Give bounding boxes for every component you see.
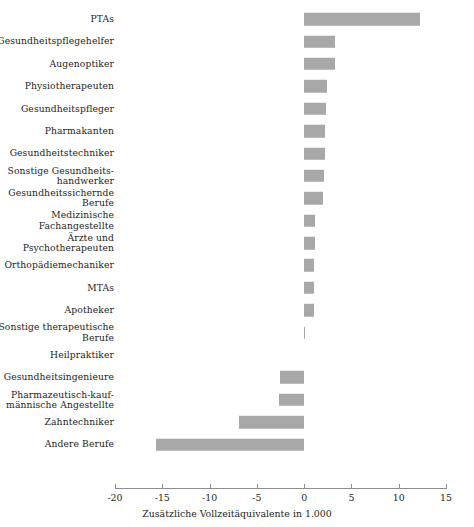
x-tick-label: -20 [95, 492, 135, 503]
x-tick-label: 5 [331, 492, 371, 503]
x-tick-label: -10 [190, 492, 230, 503]
bar-track [0, 389, 474, 411]
plot-area: PTAsGesundheitspflegehelferAugenoptikerP… [0, 0, 474, 527]
bar [280, 371, 305, 384]
bar-row: Heilpraktiker [0, 344, 474, 366]
bar [304, 282, 313, 295]
x-tick-label: 0 [284, 492, 324, 503]
bar-track [0, 8, 474, 30]
bar [304, 35, 335, 48]
bar-row: Pharmazeutisch-kauf- männische Angestell… [0, 389, 474, 411]
bar-row: Gesundheitsingenieure [0, 366, 474, 388]
bar-row: MTAs [0, 277, 474, 299]
bar-track [0, 299, 474, 321]
bar [304, 125, 325, 138]
bar-chart: PTAsGesundheitspflegehelferAugenoptikerP… [0, 0, 474, 527]
bar [304, 304, 313, 317]
bar [304, 147, 325, 160]
bar-row: Gesundheitspfleger [0, 98, 474, 120]
bar-row: Zahntechniker [0, 411, 474, 433]
x-tick [446, 484, 447, 489]
bar-track [0, 75, 474, 97]
x-tick [351, 484, 352, 489]
bar [156, 438, 304, 451]
bar-row: Gesundheitstechniker [0, 142, 474, 164]
bar-track [0, 142, 474, 164]
bar [304, 214, 315, 227]
bar-track [0, 366, 474, 388]
bar [279, 394, 305, 407]
bar-row: Pharmakanten [0, 120, 474, 142]
bar-track [0, 277, 474, 299]
bar-row: PTAs [0, 8, 474, 30]
bar-row: Gesundheitspflegehelfer [0, 30, 474, 52]
bar [304, 237, 314, 250]
bar-row: Andere Berufe [0, 433, 474, 455]
x-tick [210, 484, 211, 489]
bar [304, 13, 419, 26]
x-tick-label: 15 [426, 492, 466, 503]
bar-row: Ärzte und Psychotherapeuten [0, 232, 474, 254]
bar [304, 192, 323, 205]
bar-row: Gesundheitssichernde Berufe [0, 187, 474, 209]
bar [239, 416, 304, 429]
bar-row: Sonstige Gesundheits- handwerker [0, 165, 474, 187]
x-tick [115, 484, 116, 489]
bar [304, 80, 327, 93]
x-axis-label: Zusätzliche Vollzeitäquivalente in 1.000 [0, 508, 474, 519]
bar [304, 326, 305, 339]
bar-track [0, 254, 474, 276]
bar-row: Apotheker [0, 299, 474, 321]
x-tick [399, 484, 400, 489]
bar [304, 259, 313, 272]
bar-row: Orthopädiemechaniker [0, 254, 474, 276]
bar-track [0, 165, 474, 187]
bar-track [0, 53, 474, 75]
x-tick [257, 484, 258, 489]
x-tick-label: -5 [237, 492, 277, 503]
bar-track [0, 232, 474, 254]
x-tick-label: -15 [142, 492, 182, 503]
bar [304, 170, 324, 183]
bar-rows: PTAsGesundheitspflegehelferAugenoptikerP… [0, 8, 474, 456]
bar-row: Augenoptiker [0, 53, 474, 75]
bar-track [0, 210, 474, 232]
bar-track [0, 98, 474, 120]
bar [304, 103, 326, 116]
bar-track [0, 411, 474, 433]
bar-track [0, 321, 474, 343]
x-tick [162, 484, 163, 489]
bar-track [0, 30, 474, 52]
x-axis-line [115, 488, 446, 489]
bar-track [0, 433, 474, 455]
bar-track [0, 187, 474, 209]
bar [304, 58, 335, 71]
bar-track [0, 344, 474, 366]
bar-row: Medizinische Fachangestellte [0, 210, 474, 232]
bar-track [0, 120, 474, 142]
bar-row: Sonstige therapeutische Berufe [0, 321, 474, 343]
x-tick [304, 484, 305, 489]
x-tick-label: 10 [379, 492, 419, 503]
bar-row: Physiotherapeuten [0, 75, 474, 97]
